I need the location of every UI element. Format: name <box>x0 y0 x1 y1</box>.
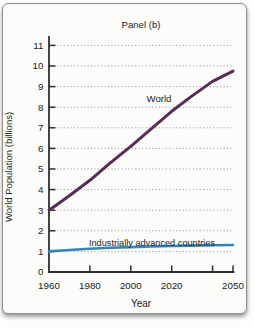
population-chart: 0123456789101119601980200020202050 Panel… <box>0 0 254 329</box>
axes <box>49 37 234 272</box>
x-tick-label-2050: 2050 <box>222 280 244 291</box>
advanced-series-label: Industrially advanced countries <box>89 238 216 248</box>
x-axis-label: Year <box>131 298 152 309</box>
y-tick-label-3: 3 <box>38 205 44 216</box>
y-tick-label-6: 6 <box>38 143 44 154</box>
x-tick-label-1980: 1980 <box>79 280 101 291</box>
gridlines <box>57 45 234 251</box>
y-tick-label-2: 2 <box>38 225 43 236</box>
tick-labels: 0123456789101119601980200020202050 <box>33 40 245 291</box>
y-axis-label: World Population (billions) <box>3 112 14 222</box>
y-tick-label-7: 7 <box>38 122 43 133</box>
x-tick-label-1960: 1960 <box>38 280 60 291</box>
y-tick-label-8: 8 <box>38 102 44 113</box>
world-series-label: World <box>147 93 172 104</box>
panel-title: Panel (b) <box>122 19 161 30</box>
y-tick-label-11: 11 <box>33 40 43 51</box>
world-line <box>49 71 233 210</box>
x-tick-label-2000: 2000 <box>120 280 142 291</box>
y-tick-label-9: 9 <box>38 81 43 92</box>
series-lines <box>49 71 233 251</box>
x-tick-label-2020: 2020 <box>161 280 183 291</box>
y-tick-label-1: 1 <box>38 246 43 257</box>
y-tick-label-0: 0 <box>38 266 44 277</box>
y-tick-label-5: 5 <box>38 163 44 174</box>
y-tick-label-4: 4 <box>38 184 44 195</box>
y-tick-label-10: 10 <box>33 60 44 71</box>
